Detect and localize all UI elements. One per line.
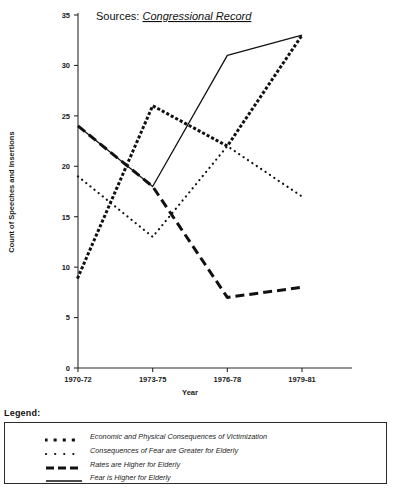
legend-item[interactable]: Consequences of Fear are Greater for Eld… [45, 444, 238, 456]
y-axis-label: Count of Speeches and Insertions [7, 131, 16, 252]
series-line-1 [78, 146, 302, 237]
legend-swatch-solid [45, 472, 83, 482]
source-prefix: Sources: [96, 10, 142, 22]
legend-item-label: Consequences of Fear are Greater for Eld… [90, 446, 238, 455]
series-line-2 [78, 126, 302, 297]
legend-box: Economic and Physical Consequences of Vi… [4, 422, 387, 484]
y-tick-label: 35 [62, 11, 70, 20]
legend-swatch-fine-dotted [45, 445, 83, 455]
x-axis-label: Year [182, 388, 198, 397]
data-series-group [78, 35, 302, 297]
line-chart-svg: 051015202530351970-721973-751976-781979-… [0, 0, 400, 400]
legend-swatch-dashed [45, 459, 83, 469]
series-line-3 [78, 35, 302, 186]
y-tick-label: 25 [62, 112, 70, 121]
legend-item-label: Economic and Physical Consequences of Vi… [90, 432, 267, 441]
legend-item[interactable]: Economic and Physical Consequences of Vi… [45, 430, 267, 442]
legend-item-label: Fear is Higher for Elderly [90, 473, 171, 482]
legend-item[interactable]: Fear is Higher for Elderly [45, 471, 171, 483]
x-tick-label: 1970-72 [64, 375, 92, 384]
y-tick-label: 30 [62, 61, 70, 70]
axes-group [78, 13, 352, 368]
legend-title: Legend: [4, 408, 40, 418]
y-tick-label: 20 [62, 162, 70, 171]
legend-item-label: Rates are Higher for Elderly [90, 460, 180, 469]
legend-swatch-square-dotted [45, 431, 83, 441]
x-tick-label: 1976-78 [214, 375, 242, 384]
y-tick-label: 10 [62, 263, 70, 272]
x-tick-label: 1979-81 [288, 375, 316, 384]
source-annotation: Sources: Congressional Record [96, 10, 252, 22]
y-tick-label: 0 [66, 364, 70, 373]
source-name: Congressional Record [142, 10, 252, 22]
chart-plot-region: 051015202530351970-721973-751976-781979-… [0, 0, 400, 400]
tick-labels-group: 051015202530351970-721973-751976-781979-… [62, 11, 316, 384]
y-tick-label: 15 [62, 213, 70, 222]
legend-container: Legend: Economic and Physical Consequenc… [0, 404, 400, 494]
x-tick-label: 1973-75 [139, 375, 167, 384]
legend-item[interactable]: Rates are Higher for Elderly [45, 458, 180, 470]
y-tick-label: 5 [66, 313, 70, 322]
